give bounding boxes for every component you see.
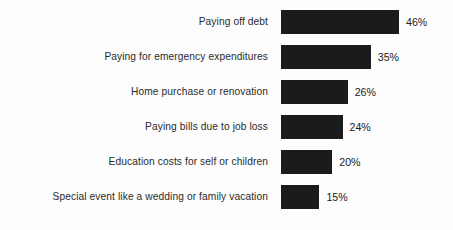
bar [281,185,319,209]
bar-zone: 20% [281,150,453,174]
bar-category-label: Paying off debt [0,16,268,28]
chart-row: Paying off debt 46% [0,10,453,34]
bar-category-label: Paying bills due to job loss [0,121,268,133]
bar-value-label: 35% [378,51,399,63]
bar-category-label: Paying for emergency expenditures [0,51,268,63]
chart-row: Home purchase or renovation 26% [0,80,453,104]
bar [281,10,399,34]
horizontal-bar-chart: Paying off debt 46% Paying for emergency… [0,0,453,230]
bar-category-label: Education costs for self or children [0,156,268,168]
bar [281,45,371,69]
bar-value-label: 24% [350,121,371,133]
bar-value-label: 20% [339,156,360,168]
bar-category-label: Home purchase or renovation [0,86,268,98]
bar-value-label: 46% [406,16,427,28]
chart-row: Special event like a wedding or family v… [0,185,453,209]
bar-value-label: 15% [326,191,347,203]
bar-zone: 35% [281,45,453,69]
chart-row: Paying for emergency expenditures 35% [0,45,453,69]
bar-category-label: Special event like a wedding or family v… [0,191,268,203]
bar [281,115,343,139]
chart-row: Paying bills due to job loss 24% [0,115,453,139]
bar-zone: 24% [281,115,453,139]
bar-value-label: 26% [355,86,376,98]
chart-row: Education costs for self or children 20% [0,150,453,174]
bar-zone: 15% [281,185,453,209]
bar [281,150,332,174]
bar [281,80,348,104]
bar-zone: 26% [281,80,453,104]
chart-rows: Paying off debt 46% Paying for emergency… [0,10,453,220]
bar-zone: 46% [281,10,453,34]
